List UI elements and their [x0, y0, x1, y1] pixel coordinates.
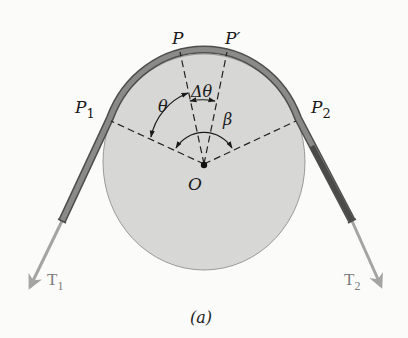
belt-right-end [312, 146, 352, 221]
label-t2: T2 [344, 270, 360, 293]
label-center-o: O [188, 174, 202, 194]
label-theta: θ [158, 97, 168, 116]
label-t1-sub: 1 [57, 279, 63, 293]
label-p1: P1 [74, 97, 95, 121]
belt-friction-diagram: P P′ Δθ θ β O P1 P2 T1 T2 (a) [0, 0, 408, 338]
label-beta: β [222, 110, 232, 129]
tension-arrow-t2 [352, 221, 381, 286]
label-t2-sub: 2 [354, 279, 360, 293]
label-t2-main: T [344, 270, 355, 289]
label-p: P [171, 28, 184, 48]
figure-caption: (a) [190, 308, 212, 327]
label-p2-main: P [310, 97, 323, 117]
label-p2-sub: 2 [322, 106, 330, 121]
label-p1-sub: 1 [86, 106, 94, 121]
label-p1-main: P [74, 97, 87, 117]
label-p-prime: P′ [224, 28, 240, 48]
label-delta-theta: Δθ [190, 82, 213, 101]
label-t1: T1 [47, 270, 63, 293]
center-point [201, 162, 207, 168]
label-p2: P2 [310, 97, 331, 121]
label-t1-main: T [47, 270, 58, 289]
